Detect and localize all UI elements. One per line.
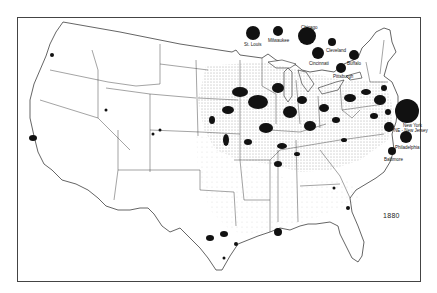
city-circle bbox=[273, 26, 283, 36]
city-circle bbox=[246, 26, 260, 40]
city-label: Philadelphia bbox=[395, 145, 420, 150]
city-label: NE - New Jersey bbox=[394, 128, 428, 133]
city-label: Cleveland bbox=[326, 48, 346, 53]
city-label: Chicago bbox=[301, 25, 318, 30]
city-circle bbox=[384, 122, 394, 132]
city-label: Baltimore bbox=[384, 157, 403, 162]
year-label: 1880 bbox=[383, 212, 400, 219]
city-circle bbox=[395, 99, 419, 123]
city-label: Milwaukee bbox=[268, 38, 289, 43]
city-circle bbox=[312, 47, 324, 59]
us-population-map bbox=[0, 0, 437, 293]
city-circle bbox=[328, 38, 336, 46]
city-circle bbox=[336, 63, 346, 73]
city-circle bbox=[349, 50, 359, 60]
rural-density-stipple bbox=[196, 62, 394, 236]
city-label: Cincinnati bbox=[309, 61, 329, 66]
city-label: St. Louis bbox=[244, 42, 262, 47]
city-label: Buffalo bbox=[347, 61, 361, 66]
city-label: Pittsburgh bbox=[333, 74, 353, 79]
